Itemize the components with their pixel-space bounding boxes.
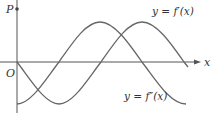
curve-f-double-prime-label: y = f″(x) [123, 90, 167, 102]
graph: x P O y = f′(x) y = f″(x) [0, 0, 214, 113]
origin-label: O [6, 67, 15, 80]
curve-f-prime-label: y = f′(x) [151, 5, 194, 17]
point-p [15, 7, 19, 11]
x-axis-arrow-icon [194, 60, 201, 65]
x-axis-label: x [204, 56, 211, 69]
point-p-label: P [5, 3, 14, 16]
